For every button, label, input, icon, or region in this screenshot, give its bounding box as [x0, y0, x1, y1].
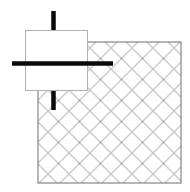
white-block: [26, 31, 88, 91]
technical-diagram-figure: [0, 0, 190, 192]
white-block-body: [26, 31, 88, 91]
diagram-canvas: [0, 0, 190, 192]
